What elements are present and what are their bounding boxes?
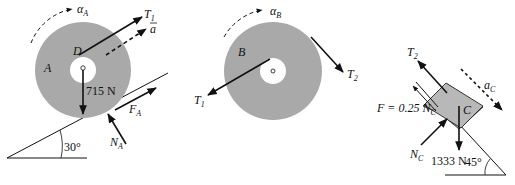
point-d-label: D: [72, 44, 82, 58]
tension-t2-arrow-c: [418, 61, 447, 93]
disk-a-label: A: [43, 61, 52, 75]
normal-label-c: NC: [409, 147, 424, 163]
angle-arc-a: [60, 130, 62, 158]
disk-b-label: B: [238, 45, 246, 59]
block-c-shape: [424, 83, 483, 128]
t1-label-b: T1: [194, 93, 205, 109]
weight-label-c: 1333 N: [431, 154, 467, 168]
accel-label-c: aC: [484, 78, 496, 94]
friction-eq-label: F = 0.25 NC: [376, 101, 436, 117]
alpha-b-label: αB: [270, 4, 281, 20]
weight-label-a: 715 N: [86, 84, 116, 98]
block-c-label: C: [463, 103, 472, 117]
angle-label-c: 45°: [465, 155, 482, 169]
t2-label-b: T2: [347, 67, 358, 83]
disk-b-diagram: αB B T1 T2: [194, 4, 358, 120]
disk-b-center: [271, 69, 275, 73]
friction-label-a: FA: [128, 102, 141, 118]
angle-label-a: 30°: [64, 140, 81, 154]
normal-label-a: NA: [109, 135, 123, 151]
normal-arrow-c: [421, 119, 447, 145]
free-body-diagrams: 30° αA T1 a D A 715 N FA NA αB B: [0, 0, 515, 185]
t2-label-c: T2: [407, 45, 418, 61]
block-c-diagram: 45° C T2 aC F = 0.25 NC NC 1333 N: [376, 45, 506, 175]
accel-label-a: a: [150, 22, 156, 36]
disk-a-diagram: 30° αA T1 a D A 715 N FA NA: [7, 2, 168, 158]
disk-a-center: [81, 66, 85, 70]
alpha-a-label: αA: [77, 2, 88, 18]
t1-label: T1: [144, 7, 155, 23]
angle-arc-c: [485, 159, 490, 175]
